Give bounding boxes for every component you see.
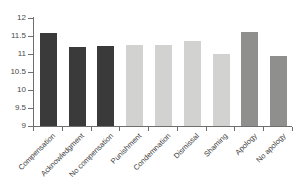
x-axis-tick <box>206 127 207 131</box>
bar <box>241 32 258 126</box>
bar <box>126 45 143 126</box>
bar <box>270 56 287 126</box>
bar <box>155 45 172 126</box>
plot-area <box>34 18 292 126</box>
y-axis-tick-label: 11.5 <box>0 32 26 40</box>
category-label-text: Apology <box>234 132 258 156</box>
bar <box>213 54 230 126</box>
category-label-text: Dismissal <box>173 132 201 160</box>
y-axis-tick <box>28 72 33 73</box>
category-label-text: Shaming <box>203 132 229 158</box>
bar <box>184 41 201 126</box>
y-axis-tick-label: 12 <box>0 14 26 22</box>
x-axis-tick <box>33 127 34 131</box>
x-axis-tick <box>177 127 178 131</box>
x-axis-tick <box>234 127 235 131</box>
y-axis-tick-label: 9 <box>0 122 26 130</box>
bar <box>69 47 86 126</box>
x-axis-tick <box>263 127 264 131</box>
y-axis-tick-label: 11 <box>0 50 26 58</box>
category-label-text: No apology <box>255 132 287 164</box>
x-axis-tick <box>62 127 63 131</box>
bar <box>97 46 114 126</box>
bar <box>40 33 57 126</box>
y-axis-tick <box>28 54 33 55</box>
y-axis-tick <box>28 18 33 19</box>
y-axis-tick <box>28 108 33 109</box>
x-axis-tick <box>148 127 149 131</box>
x-axis-line <box>33 126 292 127</box>
x-axis-tick <box>292 127 293 131</box>
y-axis-tick-label: 10 <box>0 86 26 94</box>
x-axis-tick <box>91 127 92 131</box>
bar-chart: 1211.51110.5109.59 CompensationAcknowled… <box>0 0 302 190</box>
y-axis-tick-label: 9.5 <box>0 104 26 112</box>
y-axis-tick <box>28 90 33 91</box>
y-axis-tick <box>28 36 33 37</box>
y-axis-tick-label: 10.5 <box>0 68 26 76</box>
x-axis-tick <box>119 127 120 131</box>
